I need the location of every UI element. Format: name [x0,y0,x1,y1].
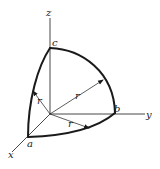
sphere-octant-diagram: z y x c b a r r r [0,0,160,169]
y-axis-label: y [145,109,152,120]
radius-label-xy: r [68,118,74,129]
point-a-label: a [27,138,33,149]
x-axis-label: x [8,149,14,160]
point-b-label: b [114,103,120,114]
point-c-label: c [52,37,58,48]
arc-c-to-a [28,48,50,137]
arc-c-to-b [50,48,115,113]
radius-label-xz: r [37,95,43,106]
radius-label-diagonal: r [75,90,81,101]
axes [12,18,145,152]
z-axis-label: z [45,7,52,18]
